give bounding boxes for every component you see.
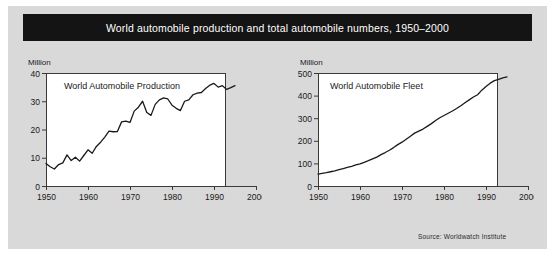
page-title: World automobile production and total au… <box>106 22 449 34</box>
svg-text:30: 30 <box>31 97 41 107</box>
chart-world-automobile-fleet: Million 01002003004005001950196019701980… <box>288 58 534 218</box>
svg-text:100: 100 <box>298 159 312 169</box>
svg-text:200: 200 <box>298 136 312 146</box>
svg-text:1960: 1960 <box>79 192 98 202</box>
y-axis-unit-label-left: Million <box>28 58 51 67</box>
svg-text:1980: 1980 <box>435 192 454 202</box>
svg-text:300: 300 <box>298 114 312 124</box>
y-axis-unit-label-right: Million <box>300 58 323 67</box>
svg-text:2000: 2000 <box>519 192 534 202</box>
chart-label-left: World Automobile Production <box>64 81 180 91</box>
svg-text:1950: 1950 <box>37 192 56 202</box>
figure-container: World automobile production and total au… <box>0 0 555 268</box>
svg-text:0: 0 <box>35 182 40 192</box>
chart-label-right: World Automobile Fleet <box>330 81 423 91</box>
chart-world-automobile-production: Million 01020304019501960197019801990200… <box>16 58 262 218</box>
svg-text:400: 400 <box>298 91 312 101</box>
svg-text:20: 20 <box>31 125 41 135</box>
svg-text:1960: 1960 <box>351 192 370 202</box>
svg-text:1990: 1990 <box>205 192 224 202</box>
figure-title-banner: World automobile production and total au… <box>23 14 532 41</box>
svg-text:500: 500 <box>298 69 312 79</box>
svg-text:1970: 1970 <box>393 192 412 202</box>
svg-text:1980: 1980 <box>163 192 182 202</box>
svg-text:0: 0 <box>307 182 312 192</box>
svg-text:1970: 1970 <box>121 192 140 202</box>
source-attribution: Source: Worldwatch Institute <box>418 233 506 240</box>
svg-text:10: 10 <box>31 153 41 163</box>
svg-text:40: 40 <box>31 69 41 79</box>
svg-text:1990: 1990 <box>477 192 496 202</box>
svg-text:1950: 1950 <box>309 192 328 202</box>
svg-text:2000: 2000 <box>247 192 262 202</box>
